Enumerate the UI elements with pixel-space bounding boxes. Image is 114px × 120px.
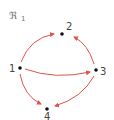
node-3-label: 3 xyxy=(100,66,106,77)
edge-3-to-4 xyxy=(55,76,94,106)
graph-title: ℜ xyxy=(9,10,18,21)
edge-3-to-2 xyxy=(74,37,94,64)
node-2-label: 2 xyxy=(66,21,72,32)
node-4-label: 4 xyxy=(44,111,50,120)
edge-1-to-4 xyxy=(20,74,41,104)
node-1 xyxy=(18,66,22,70)
relation-graph: ℜ 1 1 2 3 4 xyxy=(0,0,114,120)
edge-1-to-3 xyxy=(25,69,90,75)
node-3 xyxy=(94,68,98,72)
edge-1-to-2 xyxy=(21,34,54,62)
node-1-label: 1 xyxy=(9,63,15,74)
node-2 xyxy=(60,32,64,36)
graph-title-subscript: 1 xyxy=(21,15,25,23)
